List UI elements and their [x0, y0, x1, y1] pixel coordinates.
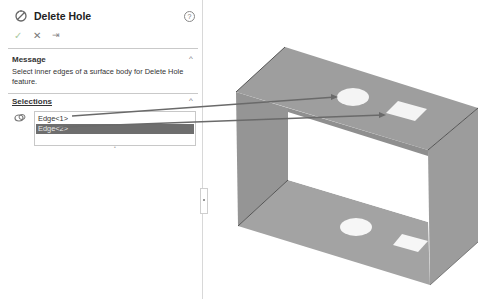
- graphics-area[interactable]: [0, 0, 488, 299]
- top-circular-hole[interactable]: [337, 88, 369, 106]
- bottom-circular-hole: [340, 218, 372, 236]
